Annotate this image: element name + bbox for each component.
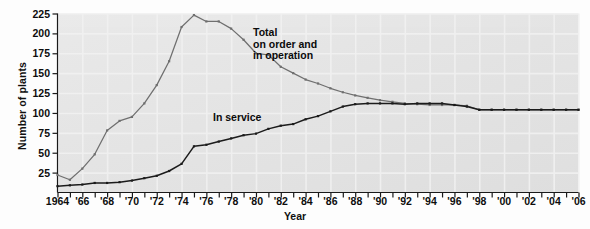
- x-tick-label: '92: [398, 195, 412, 207]
- x-tick-label: '82: [274, 195, 288, 207]
- in-service-series-label: In service: [213, 112, 261, 124]
- x-tick-label: '66: [75, 195, 89, 207]
- x-tick-label: '74: [174, 195, 188, 207]
- x-tick-label: '86: [323, 195, 337, 207]
- x-tick-label: '72: [150, 195, 164, 207]
- x-tick-label: '78: [224, 195, 238, 207]
- x-tick-label: '70: [125, 195, 139, 207]
- chart-figure: 255075100125150175200225 1964'66'68'70'7…: [0, 0, 590, 229]
- total-series-label: Total on order and in operation: [253, 27, 317, 62]
- x-tick-label: '94: [423, 195, 437, 207]
- x-tick-label: '02: [522, 195, 536, 207]
- x-tick-label: '00: [497, 195, 511, 207]
- x-tick-label: '88: [348, 195, 362, 207]
- x-tick-label: '76: [199, 195, 213, 207]
- x-axis-title: Year: [0, 210, 590, 222]
- x-tick-label: '98: [472, 195, 486, 207]
- x-tick-label: '68: [100, 195, 114, 207]
- x-tick-label: '90: [373, 195, 387, 207]
- x-tick-label: 1964: [46, 195, 69, 207]
- x-tick-label: '80: [249, 195, 263, 207]
- x-tick-label: '06: [571, 195, 585, 207]
- x-tick-label: '84: [299, 195, 313, 207]
- x-tick-label: '04: [547, 195, 561, 207]
- y-axis-title: Number of plants: [16, 36, 28, 176]
- x-tick-label: '96: [447, 195, 461, 207]
